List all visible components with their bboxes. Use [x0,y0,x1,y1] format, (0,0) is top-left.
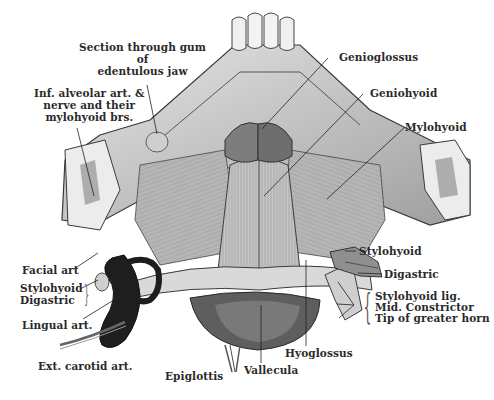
label-mylohyoid: Mylohyoid [405,121,467,133]
label-vallecula: Vallecula [244,364,298,376]
label-lingual-art: Lingual art. [22,319,92,331]
label-facial-art: Facial art [22,264,79,276]
label-stylohyoid-right: Stylohyoid [359,245,422,257]
genioglossus-stump [225,123,292,163]
label-genioglossus: Genioglossus [339,51,418,63]
label-ext-carotid: Ext. carotid art. [38,360,133,372]
label-inf-alveolar: Inf. alveolar art. & nerve and their myl… [34,87,145,123]
right-brace: } [84,282,89,306]
anatomy-figure: Section through gum of edentulous jaw In… [0,0,494,400]
label-section-gum: Section through gum of edentulous jaw [79,41,206,77]
label-hyoglossus: Hyoglossus [285,347,353,359]
geniohyoid-muscle [218,158,300,279]
label-right-group: { Stylohyoid lig. Mid. Constrictor Tip o… [356,289,490,325]
label-digastric-right: Digastric [384,268,439,280]
label-left-stylohyoid-digastric-group: Stylohyoid Digastric } [20,282,94,306]
floor-of-mouth-illustration [0,0,494,400]
left-brace: { [363,289,371,325]
label-epiglottis: Epiglottis [165,370,223,382]
epiglottis-region [190,292,320,372]
label-geniohyoid: Geniohyoid [370,87,437,99]
left-stylohyoid-digastric-stump [95,273,109,291]
